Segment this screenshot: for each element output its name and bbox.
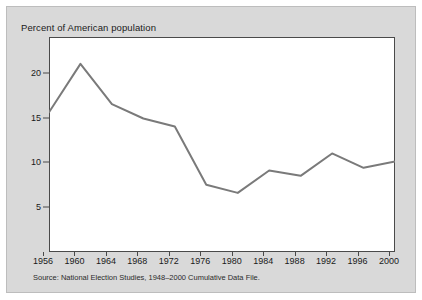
x-axis-tick [358,252,359,256]
x-axis-tick [263,252,264,256]
x-axis-tick [232,252,233,256]
x-axis-label: 1956 [33,256,53,266]
source-note: Source: National Election Studies, 1948–… [33,273,260,282]
x-axis-label: 1968 [127,256,147,266]
x-axis-label: 1984 [253,256,273,266]
x-axis-label: 1996 [348,256,368,266]
figure-card: Percent of American population 5101520 1… [6,6,416,293]
x-axis-label: 1960 [64,256,84,266]
x-axis-label: 2000 [379,256,399,266]
x-axis-tick [295,252,296,256]
x-axis-label: 1976 [190,256,210,266]
x-axis-tick [326,252,327,256]
x-axis-tick [169,252,170,256]
x-axis-tick [200,252,201,256]
x-axis-tick [43,252,44,256]
x-axis-tick [137,252,138,256]
x-axis-tick [74,252,75,256]
x-axis-label: 1964 [96,256,116,266]
figure-screenshot: Percent of American population 5101520 1… [0,0,422,300]
x-axis: 1956196019641968197219761980198419881992… [7,7,417,294]
x-axis-label: 1972 [159,256,179,266]
x-axis-label: 1992 [316,256,336,266]
x-axis-tick [106,252,107,256]
x-axis-label: 1980 [222,256,242,266]
x-axis-label: 1988 [285,256,305,266]
x-axis-tick [389,252,390,256]
